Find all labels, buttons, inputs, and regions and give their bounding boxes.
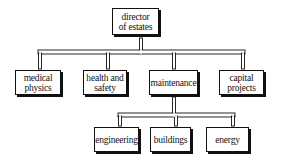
- node-medical-physics: medical physics: [15, 70, 61, 95]
- node-health-and-safety: health and safety: [83, 70, 127, 95]
- node-engineering: engineering: [94, 127, 139, 152]
- node-label: medical: [24, 73, 53, 83]
- node-energy: energy: [206, 127, 249, 152]
- node-label: health and: [86, 73, 123, 83]
- node-maintenance: maintenance: [149, 70, 198, 95]
- node-label: safety: [94, 83, 115, 93]
- node-label: of estates: [119, 22, 153, 32]
- node-director-of-estates: director of estates: [112, 8, 159, 35]
- node-label: engineering: [95, 135, 138, 145]
- node-label: director: [122, 12, 150, 22]
- node-label: capital: [230, 73, 254, 83]
- node-label: maintenance: [151, 78, 197, 88]
- node-buildings: buildings: [150, 127, 191, 152]
- node-label: buildings: [154, 135, 188, 145]
- node-label: physics: [24, 83, 51, 93]
- node-capital-projects: capital projects: [219, 70, 264, 95]
- node-label: projects: [227, 83, 255, 93]
- node-label: energy: [215, 135, 239, 145]
